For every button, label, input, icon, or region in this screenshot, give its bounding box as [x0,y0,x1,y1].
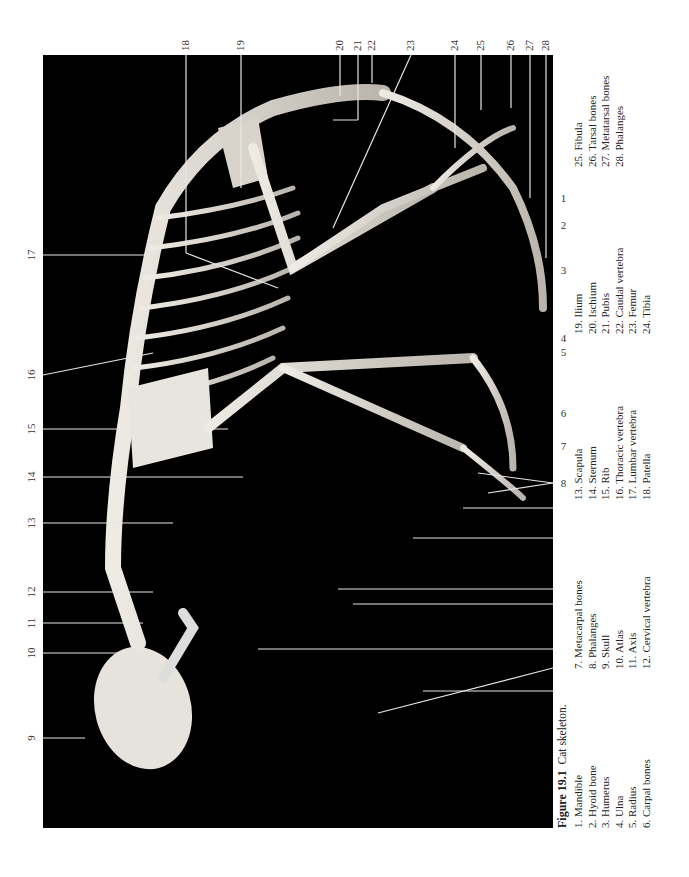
legend-column-2: 7. Metacarpal bones 8. Phalanges 9. Skul… [572,576,654,669]
callout-21: 21 [352,40,363,51]
legend-item: 17. Lumbar vertebra [626,406,640,500]
callout-27: 27 [524,40,535,51]
callout-17: 17 [26,243,37,267]
legend-item: 18. Patella [640,406,654,500]
legend-item: 25. Fibula [572,76,586,167]
callout-24: 24 [449,40,460,51]
cat-skeleton-photo [43,55,553,828]
legend-item: 1. Mandible [572,759,586,828]
legend-item: 7. Metacarpal bones [572,576,586,669]
callout-14: 14 [26,465,37,489]
callout-9: 9 [26,726,37,750]
callout-2: 2 [552,220,576,231]
legend-item: 26. Tarsal bones [586,76,600,167]
callout-10: 10 [26,641,37,665]
callout-4: 4 [552,333,576,344]
callout-18: 18 [180,40,191,51]
callout-1: 1 [552,193,576,204]
callout-19: 19 [235,40,246,51]
figure-caption: Figure 19.1 Cat skeleton. [555,704,570,828]
callout-5: 5 [552,347,576,358]
legend-item: 16. Thoracic vertebra [613,406,627,500]
figure-number: Figure 19.1 [555,770,569,828]
figure-title: Cat skeleton. [556,704,568,764]
legend-item: 22. Caudal vertebra [613,248,627,334]
legend-item: 21. Pubis [599,248,613,334]
legend-item: 9. Skull [599,576,613,669]
legend-item: 12. Cervical vertebra [640,576,654,669]
legend-item: 28. Phalanges [613,76,627,167]
legend-column-3: 13. Scapula 14. Sternum 15. Rib 16. Thor… [572,406,654,500]
legend-column-4: 19. Ilium 20. Ischium 21. Pubis 22. Caud… [572,248,654,334]
leader-lines [43,55,553,738]
callout-20: 20 [334,40,345,51]
legend-item: 24. Tibia [640,248,654,334]
callout-22: 22 [366,40,377,51]
rotated-figure-page: 1 2 3 4 5 6 7 8 9 10 11 12 13 14 15 16 1… [0,0,689,877]
legend-item: 11. Axis [626,576,640,669]
callout-15: 15 [26,417,37,441]
legend-item: 14. Sternum [586,406,600,500]
legend-item: 4. Ulna [613,759,627,828]
legend-item: 6. Carpal bones [640,759,654,828]
callout-11: 11 [26,611,37,635]
legend-item: 15. Rib [599,406,613,500]
legend-item: 5. Radius [626,759,640,828]
callout-28: 28 [540,40,551,51]
legend-item: 10. Atlas [613,576,627,669]
skeleton-illustration [43,55,553,828]
callout-12: 12 [26,580,37,604]
legend-item: 2. Hyoid bone [586,759,600,828]
legend-item: 3. Humerus [599,759,613,828]
callout-26: 26 [505,40,516,51]
legend-item: 27. Metatarsal bones [599,76,613,167]
legend-item: 13. Scapula [572,406,586,500]
callout-25: 25 [475,40,486,51]
legend-column-1: 1. Mandible 2. Hyoid bone 3. Humerus 4. … [572,759,654,828]
legend-item: 20. Ischium [586,248,600,334]
legend-item: 23. Femur [626,248,640,334]
callout-13: 13 [26,511,37,535]
legend-item: 19. Ilium [572,248,586,334]
legend-column-5: 25. Fibula 26. Tarsal bones 27. Metatars… [572,76,626,167]
legend-item: 8. Phalanges [586,576,600,669]
callout-16: 16 [26,363,37,387]
callout-23: 23 [405,40,416,51]
